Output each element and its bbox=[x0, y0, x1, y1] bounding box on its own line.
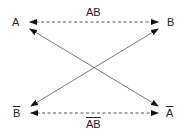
node-bottom-right-not-a: A bbox=[166, 108, 173, 119]
edge-label-ab: AB bbox=[86, 7, 101, 18]
node-top-left-a: A bbox=[12, 17, 19, 28]
edge-label-not-b: B bbox=[93, 118, 100, 130]
node-top-right-b: B bbox=[167, 17, 174, 28]
node-bottom-left-not-b: B bbox=[13, 108, 20, 119]
edge-label-not-a-not-b: AB bbox=[86, 119, 101, 130]
